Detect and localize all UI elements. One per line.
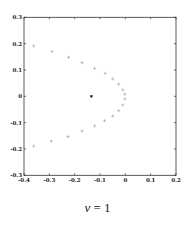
plot-frame	[24, 17, 176, 175]
x-tick-label: -0.2	[69, 177, 81, 183]
data-point	[111, 77, 114, 80]
data-point	[50, 50, 53, 53]
data-point	[32, 145, 35, 148]
caption-value: = 1	[90, 200, 110, 215]
data-points	[32, 45, 126, 148]
axis-ticks	[24, 17, 176, 175]
data-point	[117, 83, 120, 86]
x-tick-label: 0.2	[171, 177, 181, 183]
data-point	[117, 109, 120, 112]
x-tick-label: 0.1	[146, 177, 156, 183]
data-point	[121, 103, 124, 106]
data-point	[121, 88, 124, 91]
x-tick-labels: -0.4-0.3-0.2-0.100.10.2	[18, 177, 181, 183]
data-point	[93, 125, 96, 128]
data-point	[103, 119, 106, 122]
y-tick-label: -0.1	[10, 120, 22, 126]
data-point	[50, 140, 53, 143]
data-point	[81, 61, 84, 64]
y-tick-labels: -0.3-0.2-0.100.10.20.3	[10, 14, 22, 178]
data-point	[123, 93, 126, 96]
scatter-chart: -0.4-0.3-0.2-0.100.10.2 -0.3-0.2-0.100.1…	[0, 0, 195, 195]
y-tick-label: -0.3	[10, 172, 22, 178]
data-point	[32, 45, 35, 48]
x-tick-label: -0.1	[94, 177, 106, 183]
x-tick-label: 0	[123, 177, 127, 183]
x-tick-label: -0.3	[43, 177, 55, 183]
y-tick-label: 0.2	[12, 41, 22, 47]
data-point	[81, 130, 84, 133]
center-point	[90, 95, 92, 97]
figure-caption: ν = 1	[0, 200, 195, 216]
y-tick-label: 0.3	[12, 14, 22, 20]
data-point	[123, 97, 126, 100]
data-point	[111, 115, 114, 118]
y-tick-label: 0	[18, 93, 22, 99]
data-point	[67, 56, 70, 59]
data-point	[93, 67, 96, 70]
y-tick-label: -0.2	[10, 146, 22, 152]
data-point	[67, 135, 70, 138]
data-point	[104, 72, 107, 75]
y-tick-label: 0.1	[12, 67, 22, 73]
